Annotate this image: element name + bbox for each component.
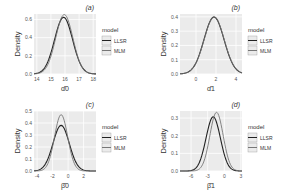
y-tick-label: 0.3 [171,115,178,121]
y-tick-label: 0.2 [25,144,32,150]
x-axis-label: α̂0 [61,85,69,92]
panel-d: (d)-6-3030.00.10.20.3Densityβ̂1modelLLSR… [146,97,292,194]
x-tick-label: 0 [195,76,198,82]
x-tick-label: 0 [67,173,70,179]
panel-label: (a) [85,4,94,12]
panel-a: (a)14151617180.00.20.40.6Densityα̂0model… [0,0,146,97]
x-axis-label: α̂1 [207,85,215,92]
y-tick-label: 0.0 [171,71,178,77]
y-axis-label: Density [13,31,22,56]
x-tick-label: 3 [240,173,243,179]
legend-label: MLM [260,48,271,54]
legend-label: LLSR [260,135,273,141]
x-tick-label: 18 [90,76,96,82]
x-tick-label: 16 [62,76,68,82]
x-axis-label: β̂1 [207,182,215,190]
x-tick-label: -2 [50,173,55,179]
legend-label: MLM [260,145,271,151]
panel-b: (b)0240.00.10.20.30.4Densityα̂1modelLLSR… [146,0,292,97]
y-tick-label: 0.2 [25,53,32,59]
panel-label: (d) [231,101,240,109]
legend-title: model [102,27,118,33]
y-tick-label: 0.4 [25,120,32,126]
y-tick-label: 0.2 [171,133,178,139]
y-axis-label: Density [13,128,22,153]
y-tick-label: 0.0 [171,168,178,174]
x-tick-label: -3 [205,173,210,179]
figure: (a)14151617180.00.20.40.6Densityα̂0model… [0,0,292,194]
legend-label: LLSR [114,38,127,44]
legend-label: MLM [114,145,125,151]
x-tick-label: 4 [235,76,238,82]
x-tick-label: 2 [215,76,218,82]
y-tick-label: 0.6 [25,16,32,22]
x-tick-label: 2 [82,173,85,179]
y-tick-label: 0.2 [171,42,178,48]
plot-area [34,111,96,171]
y-tick-label: 0.4 [25,34,32,40]
y-axis-label: Density [159,31,168,56]
y-tick-label: 0.0 [25,168,32,174]
x-tick-label: 15 [48,76,54,82]
y-axis-label: Density [159,128,168,153]
x-axis-label: β̂0 [61,182,69,190]
x-tick-label: -4 [35,173,40,179]
panel-c: (c)-4-2020.00.10.20.30.40.5Densityβ̂0mod… [0,97,146,194]
y-tick-label: 0.1 [171,150,178,156]
y-tick-label: 0.1 [25,156,32,162]
x-tick-label: -6 [189,173,194,179]
y-tick-label: 0.1 [171,57,178,63]
legend-title: model [248,27,264,33]
panel-label: (c) [86,101,94,109]
y-tick-label: 0.0 [25,71,32,77]
x-tick-label: 17 [76,76,82,82]
legend-label: LLSR [114,135,127,141]
x-tick-label: 0 [223,173,226,179]
x-tick-label: 14 [34,76,40,82]
legend-title: model [248,124,264,130]
y-tick-label: 0.5 [25,108,32,114]
panel-label: (b) [231,4,240,12]
legend-title: model [102,124,118,130]
y-tick-label: 0.3 [171,28,178,34]
y-tick-label: 0.4 [171,14,178,20]
legend-label: LLSR [260,38,273,44]
y-tick-label: 0.3 [25,132,32,138]
legend-label: MLM [114,48,125,54]
